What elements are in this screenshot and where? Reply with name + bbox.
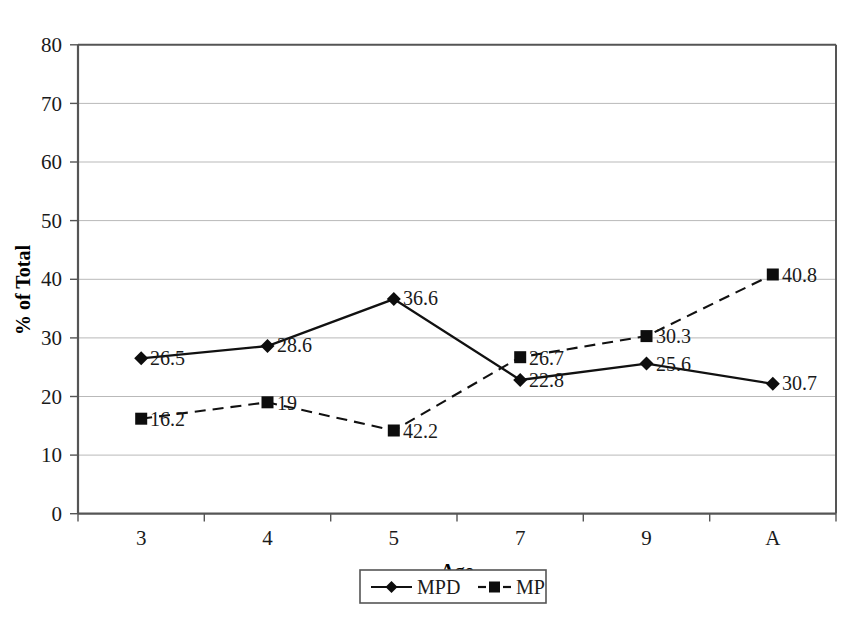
data-label: 36.6 <box>403 287 438 309</box>
y-tick-label: 70 <box>41 92 62 116</box>
line-chart: 80 70 60 50 40 30 20 10 0 % of Total 3 4… <box>0 0 865 634</box>
y-tick-label: 10 <box>41 443 62 467</box>
y-axis-title: % of Total <box>12 245 34 335</box>
data-label: 42.2 <box>403 420 438 442</box>
data-label: 30.3 <box>656 325 691 347</box>
data-label: 26.5 <box>150 347 185 369</box>
square-marker[interactable] <box>135 413 147 425</box>
x-tick-label: 5 <box>389 526 400 550</box>
y-tick-label: 60 <box>41 150 62 174</box>
chart-legend: MPD MP <box>360 570 546 603</box>
y-tick-label: 30 <box>41 326 62 350</box>
data-label: 28.6 <box>277 334 312 356</box>
legend-label: MPD <box>417 576 460 598</box>
y-tick-label: 0 <box>52 502 63 526</box>
data-label: 19 <box>277 392 297 414</box>
x-tick-label: 7 <box>515 526 526 550</box>
square-marker[interactable] <box>388 425 400 437</box>
y-tick-label: 20 <box>41 385 62 409</box>
y-tick-label: 50 <box>41 209 62 233</box>
x-tick-label: 4 <box>262 526 273 550</box>
data-label: 30.7 <box>782 372 817 394</box>
square-marker[interactable] <box>514 351 526 363</box>
square-marker[interactable] <box>767 269 779 281</box>
y-tick-label: 80 <box>41 33 62 57</box>
square-marker <box>489 582 500 593</box>
chart-page: 80 70 60 50 40 30 20 10 0 % of Total 3 4… <box>0 0 865 634</box>
data-label: 22.8 <box>529 369 564 391</box>
legend-label: MP <box>516 576 545 598</box>
square-marker[interactable] <box>641 330 653 342</box>
chart-background <box>0 0 865 634</box>
x-tick-label: A <box>765 526 781 550</box>
square-marker[interactable] <box>262 396 274 408</box>
data-label: 40.8 <box>782 264 817 286</box>
x-tick-label: 3 <box>136 526 147 550</box>
data-label: 16.2 <box>150 408 185 430</box>
data-label: 25.6 <box>656 353 691 375</box>
data-label: 26.7 <box>529 347 564 369</box>
y-tick-label: 40 <box>41 267 62 291</box>
y-axis-tick-labels: 80 70 60 50 40 30 20 10 0 <box>41 33 62 526</box>
x-tick-label: 9 <box>641 526 652 550</box>
